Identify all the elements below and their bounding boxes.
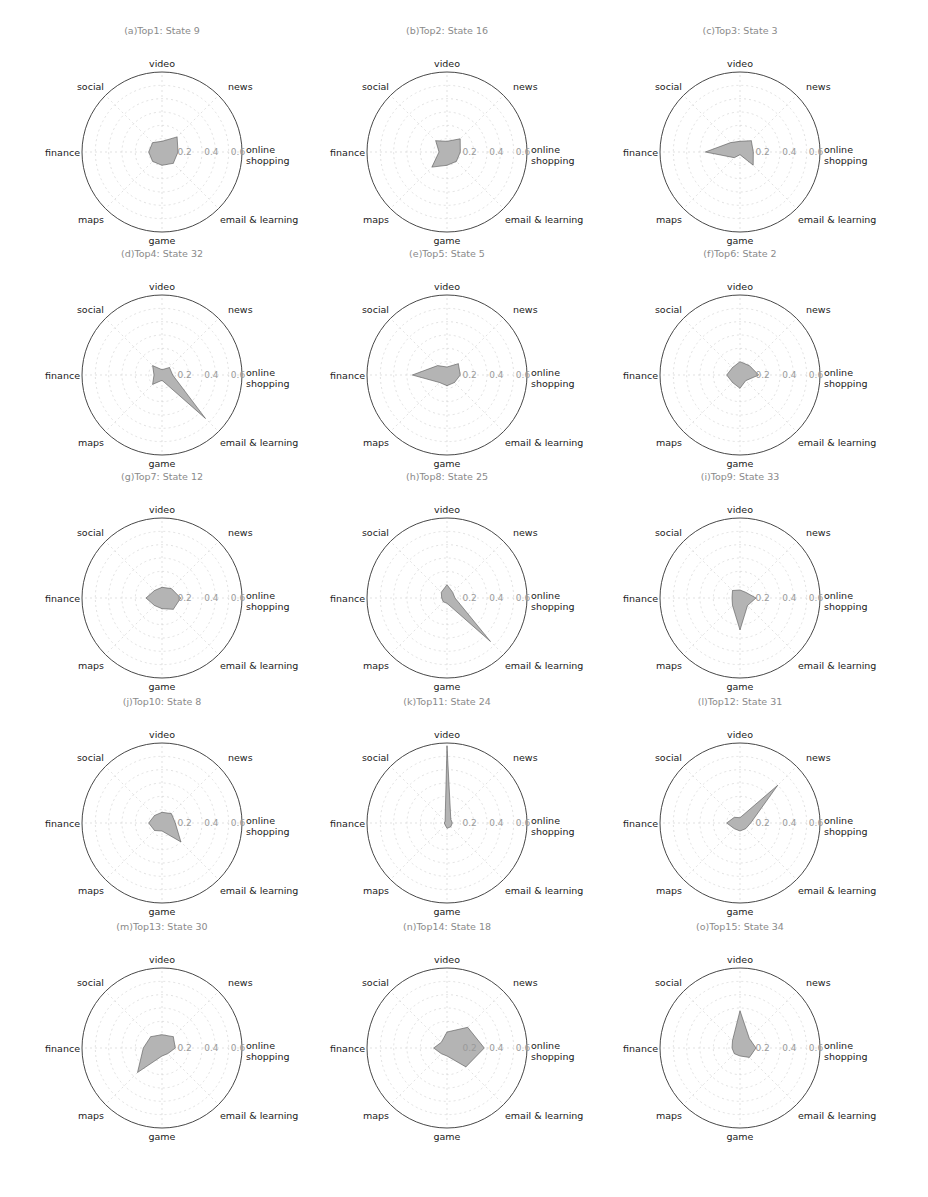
axis-label-game: game — [149, 1131, 176, 1142]
axis-label-online-shopping: shopping — [531, 378, 575, 389]
axis-label-finance: finance — [45, 818, 80, 829]
axis-label-video: video — [727, 954, 753, 965]
axis-label-email-learning: email & learning — [798, 214, 876, 225]
axis-label-social: social — [362, 977, 389, 988]
axis-label-finance: finance — [45, 1043, 80, 1054]
axis-label-game: game — [727, 458, 754, 469]
data-polygon — [732, 1011, 756, 1058]
axis-label-finance: finance — [45, 593, 80, 604]
axis-spoke — [683, 541, 740, 598]
radial-tick-label: 0.6 — [809, 1043, 824, 1053]
axis-label-game: game — [434, 681, 461, 692]
radial-tick-label: 0.6 — [516, 818, 531, 828]
axis-spoke — [683, 152, 740, 209]
axis-label-news: news — [806, 81, 831, 92]
data-polygon — [444, 746, 452, 829]
data-polygon — [149, 812, 181, 842]
radial-tick-label: 0.6 — [231, 818, 246, 828]
radar-panel: (j)Top10: State 80.20.40.6onlineshopping… — [45, 696, 298, 917]
axis-label-news: news — [228, 752, 253, 763]
axis-label-maps: maps — [363, 1110, 389, 1121]
axis-label-news: news — [513, 81, 538, 92]
radial-tick-label: 0.4 — [782, 818, 797, 828]
radar-panel: (g)Top7: State 120.20.40.6onlineshopping… — [45, 471, 298, 692]
axis-spoke — [390, 823, 447, 880]
axis-label-news: news — [228, 977, 253, 988]
radial-tick-label: 0.4 — [204, 370, 219, 380]
radial-tick-label: 0.6 — [809, 818, 824, 828]
data-polygon — [138, 1035, 176, 1073]
axis-spoke — [683, 991, 740, 1048]
radial-tick-label: 0.6 — [809, 147, 824, 157]
axis-label-online-shopping: online — [246, 590, 275, 601]
axis-label-finance: finance — [330, 1043, 365, 1054]
axis-label-email-learning: email & learning — [505, 437, 583, 448]
axis-label-video: video — [434, 954, 460, 965]
axis-label-online-shopping: online — [246, 367, 275, 378]
axis-label-maps: maps — [656, 660, 682, 671]
axis-label-news: news — [806, 304, 831, 315]
panel-title: (c)Top3: State 3 — [702, 25, 777, 36]
axis-label-email-learning: email & learning — [220, 885, 298, 896]
panel-title: (l)Top12: State 31 — [698, 696, 783, 707]
panel-title: (e)Top5: State 5 — [409, 248, 485, 259]
axis-label-email-learning: email & learning — [220, 1110, 298, 1121]
radial-tick-label: 0.2 — [756, 593, 770, 603]
panel-title: (i)Top9: State 33 — [701, 471, 780, 482]
axis-label-maps: maps — [656, 214, 682, 225]
axis-label-game: game — [434, 235, 461, 246]
axis-label-maps: maps — [78, 437, 104, 448]
radial-tick-label: 0.6 — [231, 1043, 246, 1053]
axis-label-email-learning: email & learning — [505, 885, 583, 896]
axis-label-online-shopping: shopping — [531, 826, 575, 837]
axis-label-game: game — [727, 906, 754, 917]
axis-label-email-learning: email & learning — [505, 214, 583, 225]
axis-label-social: social — [362, 752, 389, 763]
axis-label-finance: finance — [623, 147, 658, 158]
axis-label-video: video — [149, 729, 175, 740]
axis-spoke — [390, 766, 447, 823]
axis-label-online-shopping: shopping — [531, 155, 575, 166]
axis-label-finance: finance — [623, 1043, 658, 1054]
radar-panel: (f)Top6: State 20.20.40.6onlineshoppingn… — [623, 248, 876, 469]
radial-tick-label: 0.2 — [463, 593, 477, 603]
axis-spoke — [447, 766, 504, 823]
radial-tick-label: 0.2 — [463, 1043, 477, 1053]
axis-label-video: video — [434, 729, 460, 740]
axis-label-social: social — [77, 304, 104, 315]
panel-title: (g)Top7: State 12 — [121, 471, 203, 482]
axis-label-social: social — [77, 527, 104, 538]
radial-tick-label: 0.2 — [178, 818, 192, 828]
radial-tick-label: 0.6 — [516, 147, 531, 157]
axis-spoke — [683, 766, 740, 823]
axis-label-social: social — [655, 527, 682, 538]
radar-panel: (c)Top3: State 30.20.40.6onlineshoppingn… — [623, 25, 876, 246]
radial-tick-label: 0.2 — [756, 818, 770, 828]
axis-label-online-shopping: shopping — [246, 601, 290, 612]
axis-label-social: social — [77, 977, 104, 988]
axis-label-video: video — [434, 281, 460, 292]
panel-title: (m)Top13: State 30 — [116, 921, 207, 932]
axis-spoke — [105, 598, 162, 655]
radial-tick-label: 0.4 — [782, 593, 797, 603]
radar-panel: (i)Top9: State 330.20.40.6onlineshopping… — [623, 471, 876, 692]
axis-label-maps: maps — [78, 1110, 104, 1121]
axis-spoke — [390, 991, 447, 1048]
axis-label-finance: finance — [623, 370, 658, 381]
axis-label-online-shopping: online — [824, 367, 853, 378]
radar-panel: (n)Top14: State 180.20.40.6onlineshoppin… — [330, 921, 583, 1142]
axis-label-finance: finance — [45, 370, 80, 381]
axis-label-email-learning: email & learning — [505, 1110, 583, 1121]
axis-label-maps: maps — [363, 214, 389, 225]
axis-label-game: game — [149, 458, 176, 469]
axis-label-game: game — [727, 235, 754, 246]
axis-label-online-shopping: shopping — [824, 826, 868, 837]
axis-label-maps: maps — [656, 437, 682, 448]
axis-label-online-shopping: shopping — [531, 601, 575, 612]
radial-tick-label: 0.6 — [809, 593, 824, 603]
axis-label-email-learning: email & learning — [798, 885, 876, 896]
axis-label-online-shopping: shopping — [824, 601, 868, 612]
panel-title: (h)Top8: State 25 — [406, 471, 488, 482]
radial-tick-label: 0.4 — [782, 147, 797, 157]
axis-spoke — [683, 318, 740, 375]
